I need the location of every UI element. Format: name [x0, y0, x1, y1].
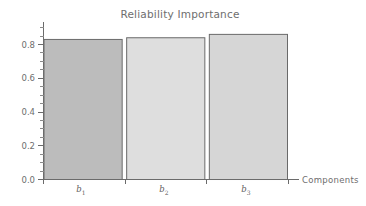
x-tick-label-b3-sub: 3	[247, 189, 251, 196]
x-axis-label: Components	[302, 175, 359, 185]
y-tick-label-4: 0.8	[21, 40, 35, 50]
x-tick-label-b2-sub: 2	[165, 189, 169, 196]
bar-b3[interactable]	[209, 34, 287, 179]
y-tick-label-1: 0.2	[21, 141, 35, 151]
y-tick-label-3: 0.6	[21, 73, 35, 83]
reliability-importance-chart: Reliability Importance	[0, 0, 366, 206]
chart-title: Reliability Importance	[120, 8, 239, 20]
chart-canvas: Reliability Importance	[0, 0, 366, 206]
y-tick-label-0: 0.0	[21, 175, 35, 185]
x-tick-label-b1-sub: 1	[82, 189, 86, 196]
bar-b1[interactable]	[44, 39, 122, 179]
y-tick-label-2: 0.4	[21, 107, 35, 117]
bar-b2[interactable]	[127, 38, 205, 180]
bars-group	[44, 34, 288, 179]
